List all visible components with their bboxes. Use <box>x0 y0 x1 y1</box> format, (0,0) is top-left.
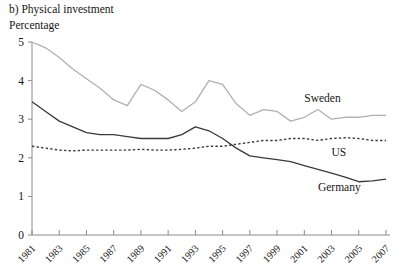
x-tick-label: 2005 <box>342 243 364 265</box>
line-chart-plot: 012345 198119831985198719891991199319951… <box>0 0 401 274</box>
x-tick-group <box>32 230 386 235</box>
y-tick-group <box>28 42 32 235</box>
x-tick-label: 1997 <box>233 243 255 265</box>
y-axis: 012345 <box>18 36 32 241</box>
y-tick-label: 5 <box>18 36 24 48</box>
x-tick-label: 1991 <box>152 243 174 265</box>
x-tick-label: 1981 <box>15 243 37 265</box>
x-tick-label: 2003 <box>315 243 337 265</box>
y-tick-label: 4 <box>18 75 24 87</box>
x-tick-label: 1987 <box>97 243 119 265</box>
series-label-group: SwedenUSGermany <box>304 92 361 194</box>
series-label-germany: Germany <box>318 181 361 194</box>
series-label-us: US <box>332 146 347 158</box>
y-tick-label: 3 <box>18 113 24 125</box>
x-tick-label: 2001 <box>288 243 310 265</box>
x-tick-label: 1989 <box>124 243 146 265</box>
x-axis: 1981198319851987198919911993199519971999… <box>15 230 391 265</box>
x-tick-label: 1999 <box>261 243 283 265</box>
x-tick-label-group: 1981198319851987198919911993199519971999… <box>15 243 391 265</box>
series-line-germany <box>32 102 386 182</box>
y-tick-label-group: 012345 <box>18 36 24 241</box>
x-tick-label: 1993 <box>179 243 201 265</box>
x-tick-label: 1983 <box>43 243 65 265</box>
x-tick-label: 2007 <box>369 243 391 265</box>
series-label-sweden: Sweden <box>304 92 341 104</box>
y-tick-label: 0 <box>18 229 24 241</box>
x-tick-label: 1985 <box>70 243 92 265</box>
x-tick-label: 1995 <box>206 243 228 265</box>
y-tick-label: 2 <box>18 152 24 164</box>
series-line-sweden <box>32 42 386 121</box>
figure-container: b) Physical investment Percentage 012345… <box>0 0 401 274</box>
y-tick-label: 1 <box>18 190 24 202</box>
data-series-group <box>32 42 386 182</box>
